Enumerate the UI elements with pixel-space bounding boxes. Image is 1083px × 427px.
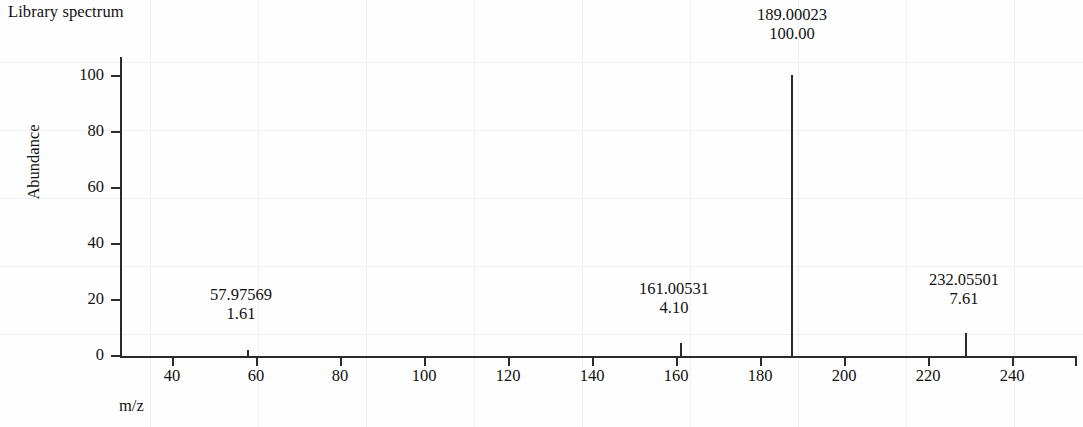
y-tick-label-20: 20: [88, 291, 105, 308]
peak-abundance-232: 7.61: [929, 289, 999, 308]
x-tick-220: [928, 357, 930, 366]
peak-mz-189: 189.00023: [757, 5, 827, 24]
y-tick-20: 20: [111, 299, 120, 301]
x-tick-200: [844, 357, 846, 366]
x-tick-label-60: 60: [248, 368, 265, 385]
y-tick-60: 60: [111, 187, 120, 189]
peak-annotation-57: 57.97569 1.61: [210, 285, 272, 323]
y-tick-label-40: 40: [88, 235, 105, 252]
x-tick-140: [592, 357, 594, 366]
y-tick-label-100: 100: [79, 67, 104, 84]
x-tick-label-160: 160: [664, 368, 689, 385]
peak-line-232: [965, 333, 967, 356]
x-tick-label-80: 80: [332, 368, 349, 385]
x-tick-180: [760, 357, 762, 366]
peak-line-57: [247, 350, 249, 356]
y-tick-100: 100: [111, 75, 120, 77]
y-tick-label-0: 0: [96, 347, 104, 364]
peak-mz-232: 232.05501: [929, 270, 999, 289]
chart-title: Library spectrum: [8, 2, 124, 22]
mass-spectrum-figure: Library spectrum Abundance m/z 0 20 40 6…: [0, 0, 1083, 427]
x-tick-label-40: 40: [164, 368, 181, 385]
peak-annotation-161: 161.00531 4.10: [639, 279, 709, 317]
x-tick-40: [172, 357, 174, 366]
y-axis-line: [120, 57, 122, 357]
y-tick-0: 0: [111, 355, 120, 357]
peak-line-161: [680, 343, 682, 356]
peak-mz-57: 57.97569: [210, 285, 272, 304]
y-axis-label: Abundance: [24, 97, 44, 227]
x-axis-line: [120, 356, 1077, 358]
x-tick-60: [256, 357, 258, 366]
peak-annotation-189: 189.00023 100.00: [757, 5, 827, 43]
peak-mz-161: 161.00531: [639, 279, 709, 298]
y-tick-label-80: 80: [88, 123, 105, 140]
x-tick-label-200: 200: [832, 368, 857, 385]
y-tick-label-60: 60: [88, 179, 105, 196]
peak-line-189: [791, 75, 793, 356]
x-axis-label: m/z: [119, 396, 144, 416]
plot-area: 0 20 40 60 80 100 40 60 80 100 120 140 1: [120, 57, 1077, 357]
x-tick-100: [424, 357, 426, 366]
x-tick-label-140: 140: [580, 368, 605, 385]
peak-abundance-189: 100.00: [757, 24, 827, 43]
x-tick-240: [1012, 357, 1014, 366]
y-tick-40: 40: [111, 243, 120, 245]
x-tick-80: [340, 357, 342, 366]
x-tick-label-180: 180: [748, 368, 773, 385]
peak-abundance-161: 4.10: [639, 298, 709, 317]
peak-annotation-232: 232.05501 7.61: [929, 270, 999, 308]
y-tick-80: 80: [111, 131, 120, 133]
x-tick-260-unlabeled: [1075, 357, 1077, 366]
x-tick-label-100: 100: [412, 368, 437, 385]
x-tick-120: [508, 357, 510, 366]
x-tick-160: [676, 357, 678, 366]
peak-abundance-57: 1.61: [210, 304, 272, 323]
x-tick-label-240: 240: [1000, 368, 1025, 385]
x-tick-label-220: 220: [916, 368, 941, 385]
x-tick-label-120: 120: [496, 368, 521, 385]
